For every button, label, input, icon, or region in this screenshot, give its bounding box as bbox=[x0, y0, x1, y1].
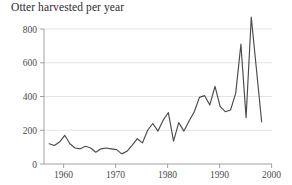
x-tick-label-2000: 2000 bbox=[262, 170, 281, 180]
y-tick-label-400: 400 bbox=[23, 92, 38, 102]
data-series-otter-harvest bbox=[49, 17, 261, 154]
x-tick-label-1990: 1990 bbox=[210, 170, 229, 180]
x-tick-marks bbox=[64, 164, 272, 168]
gridlines bbox=[44, 29, 272, 130]
y-tick-label-0: 0 bbox=[32, 160, 37, 170]
x-tick-labels: 1960 1970 1980 1990 2000 bbox=[54, 170, 281, 180]
x-tick-label-1960: 1960 bbox=[54, 170, 73, 180]
line-chart: 800 600 400 200 0 1960 1970 1980 1990 20… bbox=[0, 0, 292, 185]
y-tick-label-800: 800 bbox=[23, 25, 38, 35]
x-tick-label-1970: 1970 bbox=[106, 170, 125, 180]
y-tick-label-200: 200 bbox=[23, 126, 38, 136]
y-tick-label-600: 600 bbox=[23, 58, 38, 68]
y-tick-labels: 800 600 400 200 0 bbox=[23, 25, 38, 170]
y-tick-marks bbox=[40, 29, 44, 164]
x-tick-label-1980: 1980 bbox=[158, 170, 177, 180]
chart-page: Otter harvested per year bbox=[0, 0, 292, 185]
